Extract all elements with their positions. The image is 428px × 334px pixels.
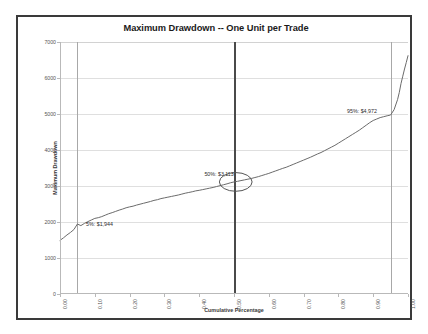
chart-frame: Maximum Drawdown -- One Unit per Trade M… <box>16 15 412 320</box>
x-tick-mark <box>234 294 235 297</box>
x-tick-mark <box>304 294 305 297</box>
y-tick-label: 3000 <box>44 183 56 189</box>
p50-annotation: 50%: $3,113 <box>204 171 233 177</box>
x-tick-mark <box>95 294 96 297</box>
x-tick-mark <box>373 294 374 297</box>
y-tick-label: 0 <box>53 291 56 297</box>
y-tick-label: 7000 <box>44 39 56 45</box>
plot-area: 01000200030004000500060007000 0.000.100.… <box>60 42 408 294</box>
x-tick-mark <box>338 294 339 297</box>
x-tick-mark <box>199 294 200 297</box>
x-tick-mark <box>60 294 61 297</box>
chart-title: Maximum Drawdown -- One Unit per Trade <box>18 23 414 33</box>
y-tick-label: 6000 <box>44 75 56 81</box>
p95-annotation: 95%: $4,972 <box>347 108 377 114</box>
x-tick-label: 1.00 <box>410 299 416 309</box>
p5-annotation: 5%: $1,944 <box>86 221 113 227</box>
x-axis-label: Cumulative Percentage <box>60 307 408 313</box>
y-tick-label: 2000 <box>44 219 56 225</box>
x-tick-mark <box>269 294 270 297</box>
y-tick-label: 4000 <box>44 147 56 153</box>
chart-figure: Maximum Drawdown -- One Unit per Trade M… <box>0 0 428 334</box>
x-tick-mark <box>164 294 165 297</box>
median-highlight <box>60 42 408 294</box>
x-tick-mark <box>408 294 409 297</box>
y-tick-label: 5000 <box>44 111 56 117</box>
x-tick-mark <box>130 294 131 297</box>
x-axis-line <box>60 293 408 294</box>
y-axis-line <box>60 42 61 294</box>
y-tick-label: 1000 <box>44 255 56 261</box>
